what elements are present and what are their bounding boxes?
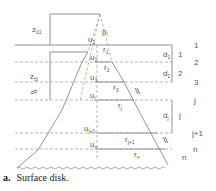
ground-wave bbox=[17, 167, 165, 169]
dashed-lines bbox=[15, 14, 172, 160]
break-marks bbox=[31, 88, 168, 143]
layer-j-mid: j bbox=[178, 111, 181, 120]
un-label: un bbox=[90, 140, 97, 150]
caption-label: a. bbox=[3, 172, 11, 183]
r2-label: r2 bbox=[104, 63, 110, 73]
u3-label: u3 bbox=[90, 73, 97, 83]
index-n: n bbox=[193, 145, 197, 154]
d2-label: d2 bbox=[163, 69, 170, 79]
apex-label: pi bbox=[102, 27, 108, 37]
dj-label: dj bbox=[163, 111, 169, 121]
u2-label: u2 bbox=[90, 53, 97, 63]
rj-label: rj bbox=[118, 101, 122, 111]
uj1-label: uj+1 bbox=[84, 124, 95, 134]
index-j: j bbox=[193, 96, 196, 105]
z0j-label: z0j bbox=[30, 72, 38, 82]
u1-label: u1 bbox=[88, 35, 95, 45]
surface-disk-diagram: z01 z0j pi u1 r1 u2 r2 u3 r3 uj rj uj+1 … bbox=[0, 0, 216, 191]
z01-label: z01 bbox=[32, 25, 42, 35]
index-3: 3 bbox=[194, 78, 199, 87]
layer-2-mid: 2 bbox=[178, 69, 183, 78]
layer-1-mid: 1 bbox=[178, 50, 183, 59]
r1-label: r1 bbox=[103, 45, 109, 55]
figure-caption: a.Surface disk. bbox=[3, 172, 69, 183]
rj1-label: rj+1 bbox=[125, 135, 135, 145]
caption-text: Surface disk. bbox=[17, 172, 69, 183]
side-n-label: n bbox=[182, 153, 186, 162]
uj-label: uj bbox=[90, 91, 96, 101]
r3-label: r3 bbox=[113, 83, 119, 93]
labels: z01 z0j pi u1 r1 u2 r2 u3 r3 uj rj uj+1 … bbox=[30, 25, 203, 162]
d1-label: d1 bbox=[163, 50, 170, 60]
index-1: 1 bbox=[194, 41, 199, 50]
index-2: 2 bbox=[194, 58, 199, 67]
rn-label: rn bbox=[134, 150, 140, 160]
index-j1: j+1 bbox=[191, 129, 203, 138]
